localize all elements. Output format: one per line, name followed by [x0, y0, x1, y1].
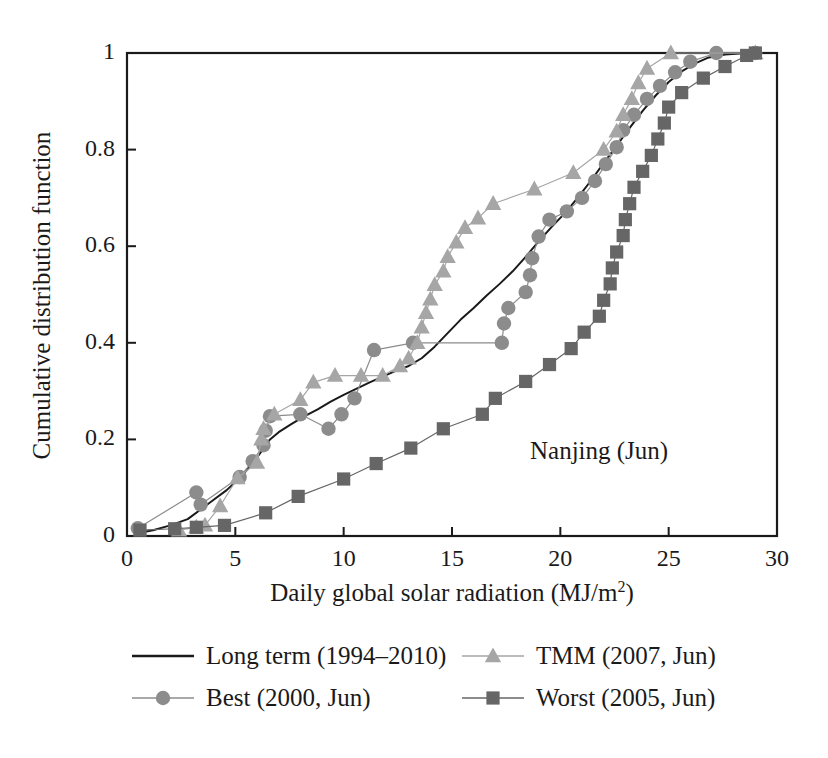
legend-item[interactable]: Worst (2005, Jun): [458, 678, 758, 718]
y-tick-label: 0: [103, 521, 115, 548]
x-tick-label: 25: [639, 545, 699, 572]
y-axis-label: Cumulative distribution function: [22, 53, 62, 538]
data-series-group: [131, 44, 764, 536]
figure-page: 00.20.40.60.81 051015202530 Cumulative d…: [0, 0, 828, 758]
y-tick-label: 0.2: [85, 424, 115, 451]
series-tmm: [171, 44, 764, 536]
legend-item-label: Best (2000, Jun): [206, 684, 371, 712]
legend-item-label: TMM (2007, Jun): [536, 642, 716, 670]
y-tick-label: 0.6: [85, 231, 115, 258]
x-tick-label: 15: [422, 545, 482, 572]
x-axis-label-close: ): [625, 579, 633, 606]
y-tick-label: 0.8: [85, 135, 115, 162]
x-tick-label: 20: [530, 545, 590, 572]
x-tick-label: 0: [97, 545, 157, 572]
legend-marker-triangle-icon: [458, 641, 528, 671]
axes-frame: [127, 53, 777, 536]
chart-legend: Long term (1994–2010)Best (2000, Jun)TMM…: [128, 636, 748, 726]
x-axis-label-main: Daily global solar radiation (MJ/m: [270, 579, 617, 606]
axis-ticks: [127, 53, 777, 536]
x-tick-label: 10: [314, 545, 374, 572]
legend-marker-none-icon: [128, 641, 198, 671]
plot-annotation-location: Nanjing (Jun): [530, 437, 668, 465]
legend-item-label: Worst (2005, Jun): [536, 684, 715, 712]
y-tick-label: 0.4: [85, 328, 115, 355]
legend-item[interactable]: TMM (2007, Jun): [458, 636, 758, 676]
legend-item[interactable]: Best (2000, Jun): [128, 678, 458, 718]
legend-item[interactable]: Long term (1994–2010): [128, 636, 458, 676]
x-tick-label: 30: [747, 545, 807, 572]
legend-marker-circle-icon: [128, 683, 198, 713]
legend-marker-square-icon: [458, 683, 528, 713]
x-axis-label: Daily global solar radiation (MJ/m2): [127, 578, 777, 607]
y-tick-label: 1: [103, 38, 115, 65]
legend-item-label: Long term (1994–2010): [206, 642, 446, 670]
x-tick-label: 5: [205, 545, 265, 572]
